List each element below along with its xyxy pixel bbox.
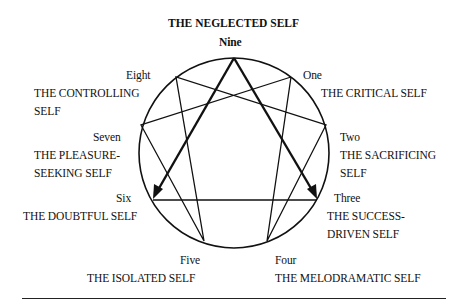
point-nine-number: Nine: [219, 35, 242, 50]
point-six-number: Six: [116, 191, 131, 206]
point-eight-name-2: SELF: [34, 104, 60, 119]
point-four-name: THE MELODRAMATIC SELF: [275, 271, 421, 286]
point-eight-name: THE CONTROLLING: [34, 86, 140, 101]
point-two-number: Two: [340, 130, 360, 145]
point-six-name: THE DOUBTFUL SELF: [23, 209, 137, 224]
enneagram-circle: [139, 58, 329, 248]
point-one-number: One: [303, 68, 322, 83]
point-five-name: THE ISOLATED SELF: [87, 271, 195, 286]
arrow-nine-to-three: [234, 58, 312, 190]
point-three-name: THE SUCCESS-: [327, 209, 405, 224]
hexad-lines: [141, 77, 326, 241]
arrow-nine-to-six: [158, 58, 234, 190]
point-seven-name-2: SEEKING SELF: [34, 166, 112, 181]
point-two-name: THE SACRIFICING: [340, 148, 436, 163]
point-one-name: THE CRITICAL SELF: [321, 86, 427, 101]
point-eight-number: Eight: [126, 68, 150, 83]
diagram-title: THE NEGLECTED SELF: [168, 17, 299, 29]
point-seven-name: THE PLEASURE-: [34, 148, 120, 163]
point-two-name-2: SELF: [340, 166, 366, 181]
bottom-rule: [22, 298, 446, 299]
point-five-number: Five: [180, 253, 200, 268]
point-three-name-2: DRIVEN SELF: [327, 227, 399, 242]
point-three-number: Three: [334, 191, 360, 206]
point-four-number: Four: [275, 253, 296, 268]
point-seven-number: Seven: [93, 130, 121, 145]
